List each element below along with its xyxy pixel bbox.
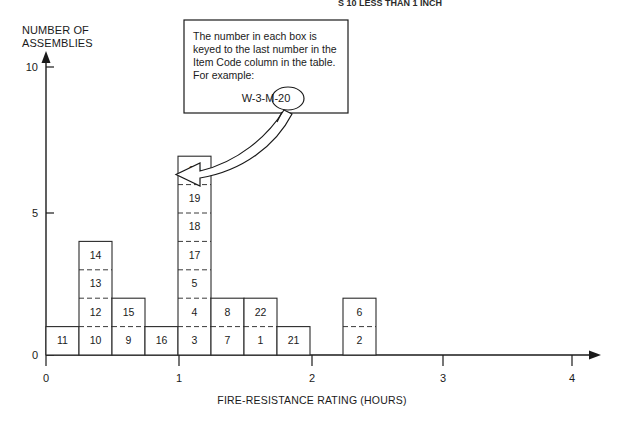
histogram-bar: 11 — [46, 327, 79, 355]
bar-cell-label: 13 — [90, 277, 102, 289]
bar-cell-label: 22 — [255, 306, 267, 318]
callout-line-2: keyed to the last number in the — [193, 43, 337, 55]
bar-cell-label: 19 — [189, 192, 201, 204]
histogram-bar: 78 — [211, 298, 244, 355]
bar-cell-label: 1 — [258, 334, 264, 346]
bar-cell-label: 17 — [189, 249, 201, 261]
x-axis-title: FIRE-RESISTANCE RATING (HOURS) — [217, 394, 406, 406]
bar-cell-label: 16 — [156, 334, 168, 346]
bar-cell-label: 7 — [225, 334, 231, 346]
y-axis-title-line2: ASSEMBLIES — [22, 37, 93, 49]
callout-line-3: Item Code column in the table. — [193, 56, 335, 68]
bar-cell-label: 14 — [90, 249, 102, 261]
callout-example-code: W-3-M-20 — [242, 92, 291, 104]
histogram-bar: 34517181920 — [178, 156, 211, 355]
x-tick-label-0: 0 — [43, 372, 49, 384]
bar-cell-label: 5 — [192, 277, 198, 289]
y-axis-arrowhead — [42, 51, 51, 63]
y-axis-title-line1: NUMBER OF — [22, 24, 89, 36]
histogram-figure: S 10 LESS THAN 1 INCH NUMBER OF ASSEMBLI… — [0, 0, 624, 423]
x-tick-label-2: 2 — [309, 372, 315, 384]
histogram-bar: 26 — [343, 298, 376, 355]
x-tick-label-1: 1 — [176, 372, 182, 384]
histogram-bar: 915 — [112, 298, 145, 355]
x-axis-arrowhead — [589, 351, 601, 360]
x-tick-label-3: 3 — [440, 372, 446, 384]
bar-cell-label: 3 — [192, 334, 198, 346]
bar-cell-label: 4 — [192, 306, 198, 318]
x-axis: 0 1 2 3 4 FIRE-RESISTANCE RATING (HOURS) — [43, 351, 601, 407]
bar-cell-label: 21 — [288, 334, 300, 346]
bar-cell-label: 2 — [357, 334, 363, 346]
bar-cell-label: 9 — [126, 334, 132, 346]
y-tick-label-5: 5 — [32, 207, 38, 219]
callout-line-1: The number in each box is — [193, 30, 317, 42]
bar-cell-label: 18 — [189, 220, 201, 232]
bar-cell-label: 6 — [357, 306, 363, 318]
bar-cell-label: 12 — [90, 306, 102, 318]
top-partial-caption: S 10 LESS THAN 1 INCH — [338, 0, 442, 8]
y-tick-label-0: 0 — [32, 349, 38, 361]
callout-annotation: The number in each box is keyed to the l… — [184, 20, 348, 113]
histogram-bar: 10121314 — [79, 241, 112, 355]
histogram-bar: 122 — [244, 298, 277, 355]
y-tick-label-10: 10 — [26, 61, 38, 73]
bar-cell-label: 15 — [123, 306, 135, 318]
histogram-bars: 11101213149151634517181920781222126 — [46, 156, 376, 355]
y-axis: 10 5 0 — [26, 51, 54, 361]
callout-line-4: For example: — [193, 69, 254, 81]
callout-leader-arrow — [176, 110, 292, 186]
histogram-bar: 21 — [277, 327, 310, 355]
histogram-bar: 16 — [145, 327, 178, 355]
bar-cell-label: 8 — [225, 306, 231, 318]
chart-canvas: S 10 LESS THAN 1 INCH NUMBER OF ASSEMBLI… — [0, 0, 624, 423]
x-tick-label-4: 4 — [569, 372, 575, 384]
bar-cell-label: 11 — [57, 334, 68, 346]
bar-cell-label: 10 — [90, 334, 102, 346]
